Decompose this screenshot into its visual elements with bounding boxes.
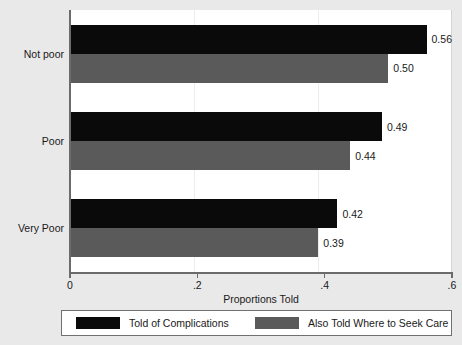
category-label-poor: Poor: [0, 136, 64, 147]
bar-not-poor-series-0: [70, 25, 427, 54]
bar-poor-series-1: [70, 141, 350, 170]
legend-entry-1: Also Told Where to Seek Care: [255, 311, 448, 335]
category-label-not-poor: Not poor: [0, 49, 64, 60]
x-tick-mark: [451, 273, 452, 278]
chart-legend: Told of Complications Also Told Where to…: [61, 310, 452, 336]
x-tick-mark: [197, 273, 198, 278]
bar-not-poor-series-1: [70, 54, 388, 83]
legend-entry-0: Told of Complications: [76, 311, 229, 335]
y-axis-line: [69, 10, 71, 273]
bar-value-label: 0.49: [387, 122, 407, 133]
bar-value-label: 0.42: [342, 209, 362, 220]
legend-label-told-of-complications: Told of Complications: [129, 318, 229, 329]
bar-value-label: 0.56: [432, 34, 452, 45]
plot-right-rule: [451, 10, 452, 272]
x-axis-line: [69, 272, 453, 274]
x-tick-label: 0: [55, 280, 85, 291]
x-axis-title: Proportions Told: [70, 294, 452, 305]
chart-figure: 0.560.500.490.440.420.39 Not poorPoorVer…: [0, 0, 462, 345]
bar-value-label: 0.50: [393, 63, 413, 74]
bar-value-label: 0.39: [323, 238, 343, 249]
legend-swatch-told-of-complications: [76, 317, 120, 329]
bar-very-poor-series-0: [70, 199, 337, 228]
bar-very-poor-series-1: [70, 228, 318, 257]
bar-poor-series-0: [70, 112, 382, 141]
x-tick-label: .6: [437, 280, 462, 291]
x-tick-mark: [324, 273, 325, 278]
x-tick-label: .4: [310, 280, 340, 291]
x-tick-label: .2: [182, 280, 212, 291]
x-tick-mark: [69, 273, 70, 278]
bar-value-label: 0.44: [355, 151, 375, 162]
legend-swatch-also-told-where-to-seek-care: [255, 317, 299, 329]
category-label-very-poor: Very Poor: [0, 223, 64, 234]
legend-label-also-told-where-to-seek-care: Also Told Where to Seek Care: [308, 318, 448, 329]
